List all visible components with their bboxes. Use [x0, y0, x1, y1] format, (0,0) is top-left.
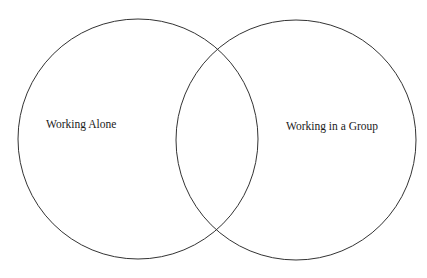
- circle-working-alone: [18, 19, 258, 259]
- label-working-alone: Working Alone: [46, 118, 116, 131]
- label-working-in-a-group: Working in a Group: [286, 120, 378, 133]
- circle-working-in-a-group: [176, 20, 416, 260]
- venn-diagram: Working Alone Working in a Group: [0, 0, 427, 278]
